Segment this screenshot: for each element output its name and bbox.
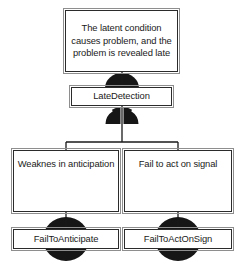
node-fail-to-act-on-signal-label: Fail to act on signal xyxy=(139,151,218,170)
node-top-event-label: The latent condition causes problem, and… xyxy=(66,22,177,59)
node-late-detection[interactable]: LateDetection xyxy=(71,87,172,106)
node-fail-to-act-on-sign-label: FailToActOnSign xyxy=(144,233,212,245)
node-fail-to-anticipate-label: FailToAnticipate xyxy=(34,233,99,245)
node-fail-to-act-on-signal[interactable]: Fail to act on signal xyxy=(124,150,232,212)
fault-tree-diagram: The latent condition causes problem, and… xyxy=(0,0,244,273)
node-weakness-anticipation-label: Weaknes in anticipation xyxy=(18,151,115,170)
node-weakness-anticipation[interactable]: Weaknes in anticipation xyxy=(13,150,119,212)
node-fail-to-act-on-sign[interactable]: FailToActOnSign xyxy=(124,229,232,249)
node-late-detection-label: LateDetection xyxy=(93,90,150,102)
node-top-event[interactable]: The latent condition causes problem, and… xyxy=(65,10,178,72)
node-fail-to-anticipate[interactable]: FailToAnticipate xyxy=(13,229,119,249)
